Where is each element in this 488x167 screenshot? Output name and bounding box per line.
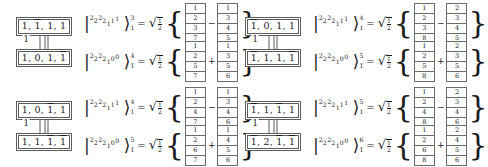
equals-sign: = [137, 18, 145, 29]
young-tableau[interactable]: 2346 [446, 87, 467, 128]
sqrt-coefficient: √12 [378, 100, 392, 115]
ket-vector: |2222100⟩51̅ [84, 137, 134, 154]
weight-node-column: 1, 0, 1, 111, 1, 1, 1 [6, 101, 82, 151]
ket-digit-stack: 2222100 [319, 137, 353, 154]
young-tableau[interactable]: 2345 [446, 3, 467, 44]
brace-open: { [165, 95, 184, 120]
ket-digit-stack: 2222111 [319, 15, 353, 32]
tableau-cell: 2 [447, 42, 466, 52]
ket-right-angle: ⟩ [124, 99, 131, 116]
edge-multiplicity-label: 1 [23, 35, 30, 44]
tableau-cell: 2 [447, 126, 466, 136]
ket-subscript: 1 [130, 109, 134, 115]
young-tableau[interactable]: 1258 [414, 41, 435, 82]
group-top-left: 1, 1, 1, 111, 0, 1, 1|2222111⟩31=√12{123… [6, 4, 259, 80]
weight-node-label: 1, 1, 1, 1 [247, 103, 299, 118]
tableaux-operator: − [208, 18, 216, 28]
tableaux-group: 1238−2345 [413, 3, 469, 44]
young-tableau[interactable]: 1257 [185, 41, 206, 82]
young-tableau[interactable]: 1247 [185, 87, 206, 128]
equation-column: |2222111⟩51=√12{1248−2346}|2222100⟩61̅=√… [311, 88, 488, 164]
ket-superscript: 4 [130, 99, 134, 105]
weight-node[interactable]: 1, 2, 1, 1 [245, 133, 301, 152]
ket-superscript: 4 [130, 53, 134, 59]
fraction-denominator: 2 [158, 62, 162, 69]
brace-open: { [394, 95, 413, 120]
tableau-cell: 7 [186, 72, 205, 81]
tableau-cell: 5 [415, 62, 434, 72]
tableaux-group: 1248−2346 [413, 87, 469, 128]
connector-lines-icon [40, 36, 49, 49]
tableau-cell: 2 [447, 88, 466, 98]
tableau-cell: 4 [447, 24, 466, 34]
radical-sign: √ [149, 138, 157, 151]
weight-node-label: 1, 1, 1, 1 [247, 51, 299, 66]
ket-subscript: 1̅ [359, 147, 363, 153]
weight-node-column: 1, 1, 1, 111, 0, 1, 1 [6, 17, 82, 67]
young-tableau[interactable]: 2456 [446, 125, 467, 166]
ket-vector: |2222111⟩41 [84, 99, 134, 116]
edge-multiplicity-label: 1 [252, 35, 259, 44]
group-bottom-left: 1, 0, 1, 111, 1, 1, 1|2222111⟩41=√12{124… [6, 88, 259, 164]
weight-node-column: 1, 0, 1, 111, 1, 1, 1 [235, 17, 311, 67]
ket-superscript: 5 [359, 99, 363, 105]
tableau-cell: 5 [447, 146, 466, 156]
ket-right-angle: ⟩ [353, 99, 360, 116]
sqrt-coefficient: √12 [378, 54, 392, 69]
young-tableau[interactable]: 1268 [414, 125, 435, 166]
node-connector-edge: 1 [235, 120, 311, 133]
tableau-cell: 4 [415, 108, 434, 118]
young-tableau[interactable]: 1248 [414, 87, 435, 128]
equation-row: |2222111⟩41=√12{1238−2345} [311, 4, 488, 42]
young-tableau[interactable]: 2356 [446, 41, 467, 82]
young-tableau[interactable]: 1238 [414, 3, 435, 44]
fraction-one-half: 12 [157, 139, 163, 153]
ket-indices: 31 [130, 15, 134, 32]
equation-row: |2222111⟩31=√12{1237−1345} [82, 4, 259, 42]
young-tableau[interactable]: 1237 [185, 3, 206, 44]
equation-row: |2222100⟩51̅=√12{1267+1456} [82, 126, 259, 164]
equals-sign: = [137, 56, 145, 67]
tableaux-operator: − [437, 102, 445, 112]
brace-open: { [394, 49, 413, 74]
ket-indices: 51 [359, 99, 363, 116]
tableaux-operator: + [208, 140, 216, 150]
fraction-denominator: 2 [387, 62, 391, 69]
tableau-cell: 4 [447, 136, 466, 146]
equals-sign: = [366, 140, 374, 151]
group-top-right: 1, 0, 1, 111, 1, 1, 1|2222111⟩41=√12{123… [235, 4, 488, 80]
equals-sign: = [366, 18, 374, 29]
ket-indices: 41̅ [130, 53, 134, 70]
brace-open: { [165, 49, 184, 74]
weight-node-label: 1, 1, 1, 1 [18, 19, 70, 34]
node-connector-edge: 1 [6, 120, 82, 133]
sqrt-coefficient: √12 [378, 138, 392, 153]
ket-digit-stack: 2222111 [90, 15, 124, 32]
equation-row: |2222111⟩41=√12{1247−1346} [82, 88, 259, 126]
tableau-cell: 8 [415, 156, 434, 165]
fraction-denominator: 2 [158, 24, 162, 31]
weight-node[interactable]: 1, 1, 1, 1 [16, 133, 72, 152]
ket-subscript: 1̅ [359, 63, 363, 69]
ket-subscript: 1 [130, 25, 134, 31]
weight-node-label: 1, 0, 1, 1 [18, 103, 70, 118]
tableau-cell: 4 [186, 108, 205, 118]
tableaux-group: 1247−1346 [184, 87, 240, 128]
tableau-cell: 3 [447, 98, 466, 108]
brace-open: { [394, 133, 413, 158]
tableau-cell: 1 [415, 126, 434, 136]
ket-vector: |2222111⟩31 [84, 15, 134, 32]
ket-indices: 61̅ [359, 137, 363, 154]
fraction-denominator: 2 [387, 108, 391, 115]
ket-vector: |2222111⟩51 [313, 99, 363, 116]
young-tableau[interactable]: 1267 [185, 125, 206, 166]
tableau-cell: 1 [415, 4, 434, 14]
weight-node[interactable]: 1, 0, 1, 1 [16, 49, 72, 68]
ket-vector: |2222100⟩51̅ [313, 53, 363, 70]
tableau-cell: 3 [447, 52, 466, 62]
ket-subscript: 1 [359, 109, 363, 115]
weight-node[interactable]: 1, 1, 1, 1 [245, 49, 301, 68]
ket-subscript: 1 [359, 25, 363, 31]
tableau-cell: 1 [186, 88, 205, 98]
